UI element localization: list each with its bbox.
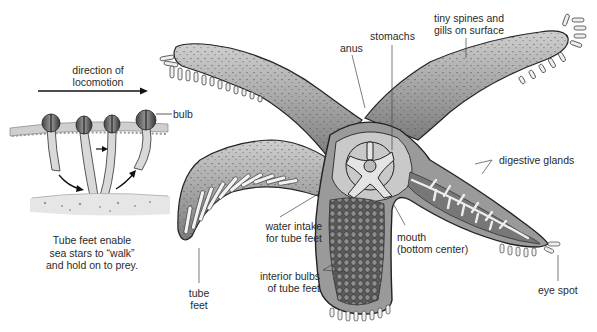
- mouth-line2: (bottom center): [397, 243, 468, 255]
- water-intake-line2: for tube feet: [244, 232, 322, 244]
- tube-feet-inset: [10, 88, 172, 216]
- interior-bulbs-line1: interior bulbs: [240, 270, 320, 282]
- mouth-line1: mouth: [397, 231, 468, 243]
- eye-spot-label: eye spot: [538, 284, 578, 296]
- direction-of-locomotion-label: direction of locomotion: [58, 64, 138, 88]
- tiny-spines-label: tiny spines and gills on surface: [432, 12, 506, 36]
- mouth-label: mouth (bottom center): [397, 231, 468, 255]
- tube-feet-line2: feet: [184, 299, 214, 311]
- caption-line2: sea stars to “walk”: [42, 247, 142, 260]
- spines-line1: tiny spines and: [432, 12, 506, 24]
- tube-feet-caption: Tube feet enable sea stars to “walk” and…: [42, 234, 142, 272]
- anus-label: anus: [340, 42, 363, 54]
- sea-star-diagram: direction of locomotion bulb Tube feet e…: [0, 0, 597, 332]
- interior-bulbs-label: interior bulbs of tube feet: [240, 270, 320, 294]
- interior-bulbs-line2: of tube feet: [240, 282, 320, 294]
- water-intake-line1: water intake: [244, 220, 322, 232]
- spines-line2: gills on surface: [432, 24, 506, 36]
- direction-label-line2: locomotion: [58, 76, 138, 88]
- water-intake-label: water intake for tube feet: [244, 220, 322, 244]
- bulb-label: bulb: [173, 108, 193, 120]
- direction-label-line1: direction of: [58, 64, 138, 76]
- stomachs-label: stomachs: [370, 30, 415, 42]
- caption-line3: and hold on to prey.: [42, 259, 142, 272]
- digestive-glands-label: digestive glands: [499, 154, 574, 166]
- sea-star-body: [160, 14, 586, 321]
- tube-feet-label: tube feet: [184, 287, 214, 311]
- caption-line1: Tube feet enable: [42, 234, 142, 247]
- tube-feet-line1: tube: [184, 287, 214, 299]
